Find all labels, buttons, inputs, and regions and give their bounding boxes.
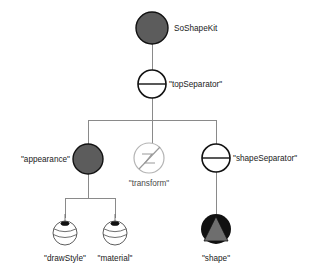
node-label-shape-separator: "shapeSeparator" — [233, 154, 297, 163]
node-label-draw-style: "drawStyle" — [44, 254, 86, 263]
node-label-material: "material" — [98, 254, 133, 263]
node-shape[interactable]: "shape" — [201, 214, 231, 263]
property-cap-icon — [61, 222, 69, 226]
filled-circle-icon — [136, 12, 168, 44]
node-top-separator[interactable]: "topSeparator" — [138, 70, 222, 98]
node-draw-style[interactable]: "drawStyle" — [44, 214, 86, 263]
node-label-so-shape-kit: SoShapeKit — [174, 24, 218, 33]
node-label-appearance: "appearance" — [21, 155, 70, 164]
node-label-transform: "transform" — [129, 179, 169, 188]
node-so-shape-kit[interactable]: SoShapeKit — [136, 12, 218, 44]
node-appearance[interactable]: "appearance" — [21, 144, 103, 174]
node-label-top-separator: "topSeparator" — [169, 80, 222, 89]
scene-graph-diagram: SoShapeKit "topSeparator" "appearance" "… — [0, 0, 318, 275]
property-cap-icon — [111, 222, 119, 226]
scene-graph-canvas: SoShapeKit "topSeparator" "appearance" "… — [0, 0, 318, 275]
edge-group — [65, 44, 216, 218]
node-transform[interactable]: "transform" — [129, 143, 169, 188]
node-label-shape: "shape" — [202, 254, 230, 263]
node-shape-separator[interactable]: "shapeSeparator" — [202, 144, 297, 172]
filled-circle-icon — [73, 144, 103, 174]
node-material[interactable]: "material" — [98, 214, 133, 263]
